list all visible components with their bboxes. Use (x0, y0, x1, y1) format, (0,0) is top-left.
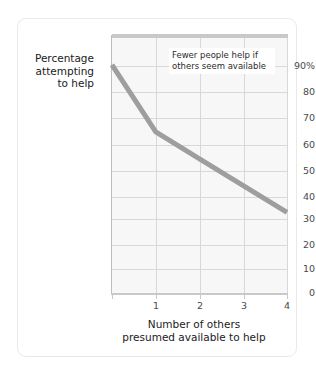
y-axis-title-line-3: to help (18, 77, 94, 90)
x-tick-label-3: 3 (234, 300, 254, 311)
y-tick-label-80: 80 (207, 86, 315, 97)
y-axis-title-line-1: Percentage (18, 52, 94, 65)
y-axis-title-line-2: attempting (18, 65, 94, 78)
x-tick-mark-1 (156, 295, 157, 299)
x-tick-label-2: 2 (190, 300, 210, 311)
y-tick-label-0: 0 (207, 287, 315, 298)
y-tick-label-40: 40 (207, 191, 315, 202)
y-tick-label-10: 10 (207, 263, 315, 274)
y-tick-label-30: 30 (207, 213, 315, 224)
x-tick-mark-2 (200, 295, 201, 299)
y-tick-label-60: 60 (207, 139, 315, 150)
y-tick-label-70: 70 (207, 112, 315, 123)
annotation-callout: Fewer people help if others seem availab… (169, 48, 275, 74)
y-tick-label-50: 50 (207, 165, 315, 176)
y-axis-line (111, 35, 112, 293)
y-axis-title: Percentage attempting to help (18, 52, 94, 90)
x-axis-title-line-1: Number of others (96, 318, 292, 331)
x-tick-label-1: 1 (146, 300, 166, 311)
x-tick-label-4: 4 (277, 300, 297, 311)
x-tick-mark-0 (112, 295, 113, 299)
y-tick-label-20: 20 (207, 239, 315, 250)
gridline-x-2 (200, 38, 201, 293)
x-axis-title-line-2: presumed available to help (96, 331, 292, 344)
x-axis-title: Number of others presumed available to h… (96, 318, 292, 344)
figure-container: 90% 80 70 60 50 40 30 20 10 0 1 2 3 4 Pe… (0, 0, 315, 374)
gridline-x-1 (156, 38, 157, 293)
